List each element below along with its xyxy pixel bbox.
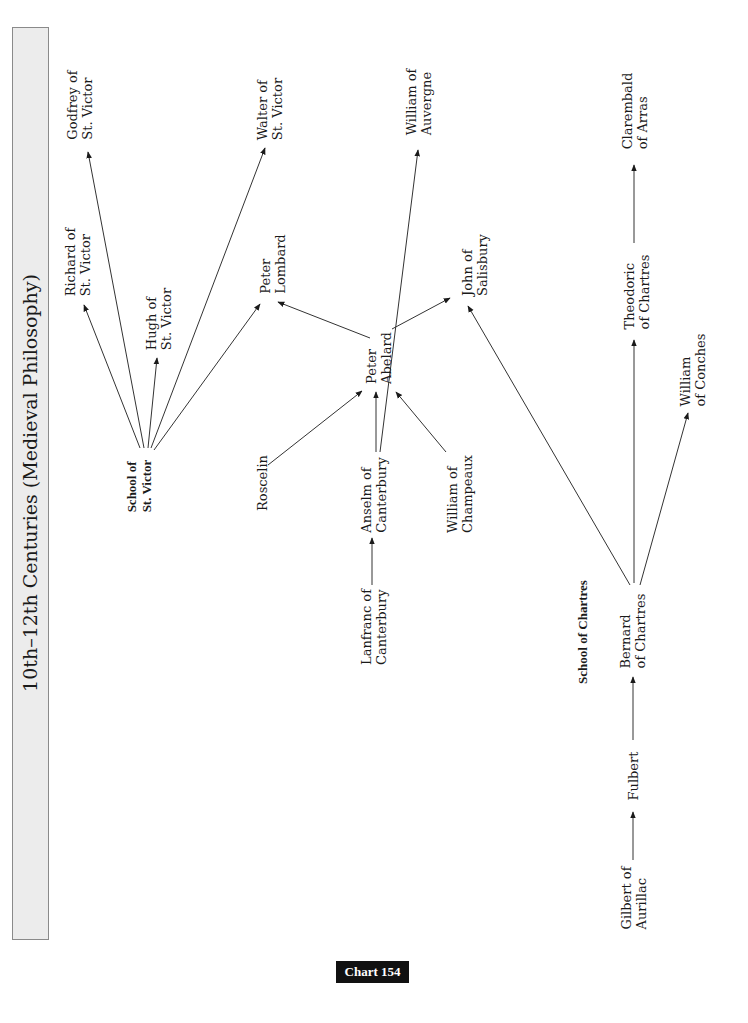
node-gilbert-aurillac: Gilbert ofAurillac (619, 867, 649, 930)
node-theodoric-chartres: Theodoricof Chartres (622, 255, 652, 330)
edge-stvictor-richard (84, 305, 140, 448)
node-william-champeaux: William ofChampeaux (445, 455, 475, 533)
node-lanfranc-canterbury: Lanfranc ofCanterbury (359, 589, 389, 665)
edge-bernard-john (468, 306, 630, 585)
node-peter-abelard: PeterAbelard (364, 332, 394, 384)
edge-champeaux-abelard (396, 392, 446, 452)
group-label-school-of-chartres: School of Chartres (575, 580, 591, 684)
chart-number-badge: Chart 154 (336, 961, 409, 983)
edge-bernard-conches (640, 413, 688, 585)
node-john-salisbury: John ofSalisbury (460, 234, 490, 296)
node-richard-st-victor: Richard ofSt. Victor (63, 228, 93, 297)
node-roscelin: Roscelin (255, 455, 270, 511)
edge-roscelin-abelard (268, 391, 362, 465)
edge-stvictor-godfrey (88, 152, 144, 448)
node-school-st-victor: School ofSt. Victor (124, 460, 154, 513)
node-william-auvergne: William ofAuvergne (404, 69, 434, 136)
node-godfrey-st-victor: Godfrey ofSt. Victor (65, 70, 95, 139)
node-william-conches: Williamof Conches (678, 334, 708, 407)
node-fulbert: Fulbert (626, 751, 641, 800)
edge-abelard-lombard (278, 302, 370, 338)
edge-abelard-john (392, 298, 450, 329)
node-hugh-st-victor: Hugh ofSt. Victor (144, 288, 174, 350)
node-clarembald-arras: Clarembaldof Arras (620, 73, 650, 150)
node-bernard-chartres: Bernardof Chartres (618, 594, 648, 669)
node-walter-st-victor: Walter ofSt. Victor (255, 78, 285, 140)
node-anselm-canterbury: Anselm ofCanterbury (359, 457, 389, 532)
node-peter-lombard: PeterLombard (258, 234, 288, 293)
edge-anselm-auvergne (380, 150, 418, 452)
